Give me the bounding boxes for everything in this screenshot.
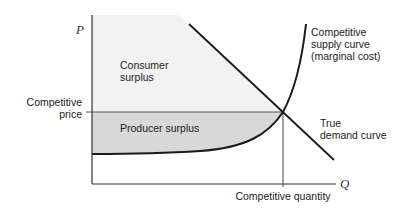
- supply-curve-label-3: (marginal cost): [311, 50, 380, 62]
- supply-curve-label: Competitive: [311, 26, 367, 38]
- competitive-quantity-label: Competitive quantity: [235, 190, 331, 202]
- demand-curve-label: True: [320, 117, 341, 129]
- producer-surplus-label: Producer surplus: [120, 122, 199, 134]
- x-axis-label: Q: [340, 176, 350, 191]
- competitive-price-label-2: price: [59, 108, 82, 120]
- surplus-diagram: P Q Consumer surplus Producer surplus Co…: [0, 0, 411, 216]
- consumer-surplus-label: Consumer: [120, 59, 169, 71]
- y-axis-label: P: [75, 22, 84, 37]
- consumer-surplus-label-2: surplus: [120, 71, 154, 83]
- competitive-price-label: Competitive: [27, 96, 83, 108]
- supply-curve-label-2: supply curve: [311, 38, 370, 50]
- demand-curve-label-2: demand curve: [320, 129, 387, 141]
